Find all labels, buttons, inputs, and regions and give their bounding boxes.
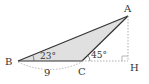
label-a: A — [123, 3, 132, 14]
label-c: C — [78, 66, 86, 77]
label-b: B — [5, 56, 12, 67]
label-h: H — [130, 62, 139, 73]
angle-label-b: 23° — [40, 51, 56, 61]
right-angle-mark — [122, 56, 128, 61]
triangle-diagram: A B C H 23° 45° 9 — [0, 0, 149, 84]
angle-arc-c-exterior — [88, 55, 90, 61]
angle-label-c: 45° — [91, 50, 107, 60]
length-label-bc: 9 — [44, 67, 50, 78]
